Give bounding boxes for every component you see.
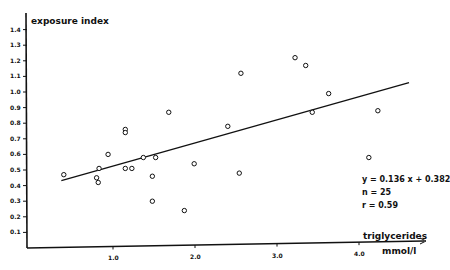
y-axis-title: exposure index: [31, 16, 109, 26]
x-axis-unit: mmol/l: [382, 246, 416, 256]
y-tick-label: 1.0: [10, 88, 21, 95]
y-tick-label: 0.6: [10, 150, 21, 157]
data-point: [123, 166, 127, 170]
data-point: [150, 174, 154, 178]
y-tick-label: 1.1: [10, 72, 21, 79]
y-tick-label: 1.3: [10, 41, 21, 48]
data-point: [141, 155, 145, 159]
x-tick-label: 1.0: [108, 254, 119, 261]
data-point: [376, 109, 380, 113]
y-tick-label: 0.3: [10, 197, 21, 204]
y-tick-label: 0.2: [10, 213, 21, 220]
sample-size: n = 25: [362, 188, 392, 197]
data-point: [293, 55, 297, 59]
y-tick-label: 0.1: [10, 228, 21, 235]
data-point: [150, 199, 154, 203]
data-point: [123, 130, 127, 134]
data-point: [97, 166, 101, 170]
x-axis: 1.02.03.04.0: [27, 238, 426, 261]
data-point: [182, 208, 186, 212]
y-tick-label: 1.2: [10, 57, 21, 64]
x-tick-label: 3.0: [272, 252, 283, 259]
data-points: [62, 55, 380, 212]
data-point: [239, 71, 243, 75]
x-axis-title: triglycerides: [363, 231, 427, 241]
data-point: [237, 171, 241, 175]
data-point: [167, 110, 171, 114]
data-point: [310, 110, 314, 114]
y-tick-label: 0.9: [10, 104, 21, 111]
x-tick-label: 4.0: [354, 250, 365, 257]
data-point: [153, 155, 157, 159]
y-tick-label: 0.8: [10, 119, 21, 126]
regression-equation: y = 0.136 x + 0.382: [362, 175, 450, 184]
data-point: [226, 124, 230, 128]
data-point: [326, 91, 330, 95]
y-tick-label: 0.4: [10, 182, 21, 189]
regression-line-path: [61, 83, 409, 181]
y-tick-label: 1.4: [10, 26, 21, 33]
y-tick-label: 0.5: [10, 166, 21, 173]
x-axis-line: [27, 241, 424, 248]
correlation-coefficient: r = 0.59: [362, 201, 398, 210]
x-tick-label: 2.0: [190, 253, 201, 260]
data-point: [192, 162, 196, 166]
data-point: [304, 63, 308, 67]
data-point: [106, 152, 110, 156]
regression-line: [61, 83, 409, 181]
data-point: [94, 176, 98, 180]
data-point: [367, 155, 371, 159]
y-axis: 0.10.20.30.40.50.60.70.80.91.01.11.21.31…: [10, 13, 27, 248]
data-point: [96, 180, 100, 184]
scatter-chart: 0.10.20.30.40.50.60.70.80.91.01.11.21.31…: [0, 0, 450, 270]
y-tick-label: 0.7: [10, 135, 21, 142]
data-point: [62, 172, 66, 176]
y-axis-line: [26, 13, 27, 248]
data-point: [130, 166, 134, 170]
